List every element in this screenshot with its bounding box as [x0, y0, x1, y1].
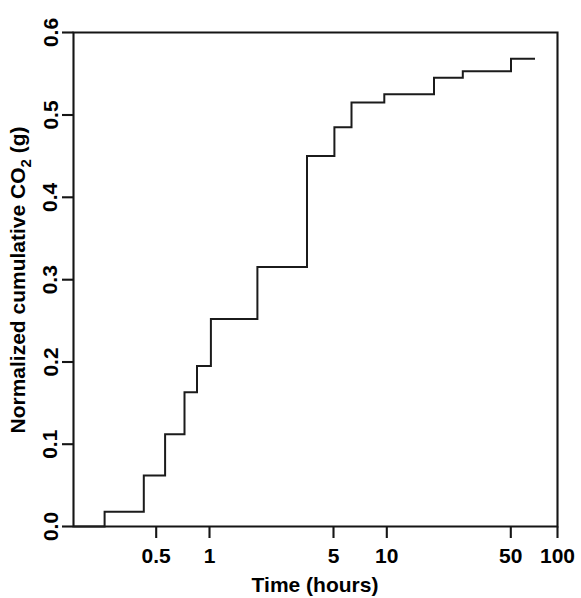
x-tick-label-5: 100: [540, 544, 575, 567]
y-tick-label-1: 0.1: [39, 429, 62, 459]
plot-frame: [74, 33, 558, 527]
y-axis-title-suffix: (g): [6, 126, 29, 159]
x-axis-tick-labels: 0.5 1 5 10 50 100: [142, 544, 575, 567]
y-tick-label-5: 0.5: [39, 100, 62, 130]
x-tick-label-2: 5: [328, 544, 340, 567]
y-tick-label-3: 0.3: [39, 265, 62, 294]
y-tick-label-6: 0.6: [39, 18, 62, 47]
y-tick-label-4: 0.4: [39, 182, 62, 212]
x-tick-label-3: 10: [375, 544, 398, 567]
y-axis-title-subscript: 2: [17, 159, 34, 167]
y-tick-label-0: 0.0: [39, 512, 62, 541]
y-axis-tick-labels: 0.0 0.1 0.2 0.3 0.4 0.5 0.6: [39, 18, 62, 541]
chart-figure: 0.0 0.1 0.2 0.3 0.4 0.5 0.6 Normalized c…: [0, 0, 581, 598]
x-axis-title: Time (hours): [252, 573, 379, 596]
y-axis-ticks: [62, 33, 74, 527]
x-tick-label-0: 0.5: [142, 544, 172, 567]
step-curve-series-0: [74, 59, 536, 527]
y-axis-title: Normalized cumulative CO2 (g): [6, 126, 34, 433]
x-tick-label-1: 1: [204, 544, 216, 567]
x-axis-ticks: [156, 527, 557, 539]
chart-svg: 0.0 0.1 0.2 0.3 0.4 0.5 0.6 Normalized c…: [0, 0, 581, 598]
y-tick-label-2: 0.2: [39, 347, 62, 376]
x-tick-label-4: 50: [499, 544, 522, 567]
svg-text:Normalized cumulative CO2 (g): Normalized cumulative CO2 (g): [6, 126, 34, 433]
y-axis-title-prefix: Normalized cumulative CO: [6, 167, 29, 433]
